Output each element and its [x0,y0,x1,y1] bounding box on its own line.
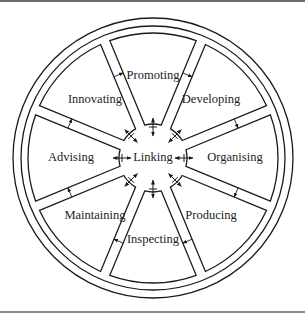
segment-label: Producing [185,208,237,222]
clockwise-arrow-icon [114,239,123,243]
clockwise-arrow-icon [234,119,238,128]
segment-label: Innovating [68,92,123,106]
segment-label: Advising [48,150,95,164]
segment-label: Organising [207,150,263,164]
segment-label: Inspecting [127,232,180,246]
clockwise-arrow-icon [68,188,72,197]
center-label-linking: Linking [133,150,173,164]
wheel-diagram: PromotingDevelopingOrganisingProducingIn… [0,0,305,313]
segment-label: Developing [182,92,241,106]
clockwise-arrow-icon [234,188,238,197]
clockwise-arrow-icon [68,119,72,128]
segment-label: Maintaining [64,208,126,222]
clockwise-arrow-icon [114,73,123,77]
clockwise-arrow-icon [183,239,192,243]
clockwise-arrow-icon [183,73,192,77]
segment-label: Promoting [127,68,181,82]
